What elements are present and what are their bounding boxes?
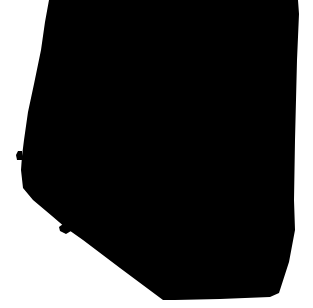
image-canvas	[0, 0, 313, 308]
silhouette-figure	[0, 0, 313, 308]
